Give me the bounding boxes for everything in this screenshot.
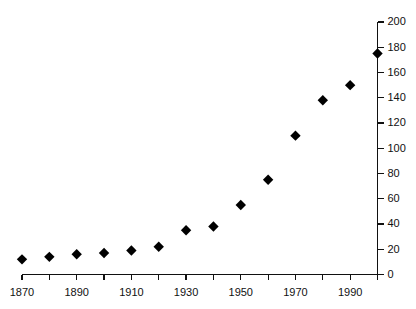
x-axis-tick-label: 1930 bbox=[174, 286, 198, 298]
data-point-marker bbox=[372, 48, 382, 58]
data-point-marker bbox=[99, 248, 109, 258]
y-axis-tick-label: 200 bbox=[388, 15, 406, 27]
x-axis-tick-label: 1870 bbox=[10, 286, 34, 298]
y-axis-tick-label: 80 bbox=[388, 167, 400, 179]
y-axis-tick-label: 60 bbox=[388, 192, 400, 204]
data-point-marker bbox=[17, 254, 27, 264]
data-point-marker bbox=[181, 225, 191, 235]
x-axis-tick-label: 1950 bbox=[229, 286, 253, 298]
data-point-marker bbox=[208, 221, 218, 231]
data-point-marker bbox=[263, 175, 273, 185]
x-axis-tick-label: 1970 bbox=[283, 286, 307, 298]
y-axis-tick-label: 0 bbox=[388, 268, 394, 280]
y-axis-tick-label: 180 bbox=[388, 41, 406, 53]
data-point-marker bbox=[154, 242, 164, 252]
data-point-marker bbox=[126, 245, 136, 255]
data-point-marker bbox=[236, 200, 246, 210]
y-axis-tick-label: 120 bbox=[388, 116, 406, 128]
x-axis-tick-label: 1910 bbox=[119, 286, 143, 298]
y-axis-tick-label: 40 bbox=[388, 217, 400, 229]
data-point-marker bbox=[44, 252, 54, 262]
x-axis-tick-label: 1990 bbox=[338, 286, 362, 298]
data-point-marker bbox=[71, 249, 81, 259]
scatter-chart: 1870189019101930195019701990020406080100… bbox=[0, 0, 416, 309]
data-point-marker bbox=[290, 130, 300, 140]
data-point-marker bbox=[318, 95, 328, 105]
y-axis-tick-label: 100 bbox=[388, 142, 406, 154]
chart-container: 1870189019101930195019701990020406080100… bbox=[0, 0, 416, 309]
y-axis-tick-label: 140 bbox=[388, 91, 406, 103]
y-axis-tick-label: 20 bbox=[388, 243, 400, 255]
data-point-marker bbox=[345, 80, 355, 90]
y-axis-tick-label: 160 bbox=[388, 66, 406, 78]
plot-area: 1870189019101930195019701990020406080100… bbox=[0, 0, 416, 309]
x-axis-tick-label: 1890 bbox=[64, 286, 88, 298]
